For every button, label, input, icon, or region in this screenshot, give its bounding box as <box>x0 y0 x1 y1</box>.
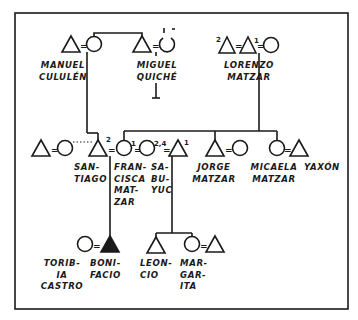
sabuyuc-female-icon <box>140 141 155 156</box>
jorge-wife-female-icon <box>233 141 248 156</box>
miguel-wife-female-icon <box>160 38 175 52</box>
marriage-sign: = <box>163 145 171 155</box>
husband-mark: 1 <box>184 139 189 147</box>
marriage-sign: = <box>93 241 101 251</box>
label-bonifacio: BONI- FACIO <box>90 258 121 281</box>
label-micaela-matzar: MICAELA MATZAR <box>244 162 304 185</box>
bonifacio-ego-male-icon <box>101 236 119 252</box>
lorenzo-wife-female-icon <box>264 38 279 53</box>
label-francisca-matzar: FRAN- CISCA MAT- ZAR <box>114 162 147 208</box>
label-yaxon: YAXÓN <box>304 162 340 174</box>
margarita-female-icon <box>185 237 200 252</box>
label-toribia-castro: TORIB- IA CASTRO <box>38 258 86 293</box>
marriage-sign: = <box>108 145 116 155</box>
francisca-matzar-female-icon <box>117 141 132 156</box>
manuel-cululen-male-icon <box>62 36 80 52</box>
marriage-sign: = <box>225 145 233 155</box>
sibling-link-line <box>94 33 142 37</box>
leoncio-male-icon <box>147 237 165 253</box>
label-manuel-cululen: MANUEL CULULÉN <box>28 60 98 83</box>
santiago-first-wife-husband-male-icon <box>32 140 50 156</box>
santiago-mark: 2 <box>106 136 111 144</box>
manuel-wife-female-icon <box>87 37 102 52</box>
marriage-sign: = <box>200 241 208 251</box>
lorenzo-matzar-male-icon-2 <box>219 37 235 53</box>
label-miguel-quiche: MIGUEL QUICHÉ <box>122 60 192 83</box>
label-margarita: MAR- GAR- ITA <box>180 258 208 293</box>
santiago-first-wife-female-icon <box>58 141 73 156</box>
label-santiago: SAN- TIAGO <box>74 162 107 185</box>
label-jorge-matzar: JORGE MATZAR <box>186 162 242 185</box>
miguel-quiche-male-icon <box>133 36 151 52</box>
margarita-husband-male-icon <box>206 236 224 252</box>
yaxon-male-icon <box>290 140 308 156</box>
micaela-matzar-female-icon <box>270 141 285 156</box>
marriage-sign: = <box>152 41 160 51</box>
label-lorenzo-matzar: LORENZO MATZAR <box>214 60 284 83</box>
mark-2: 2 <box>216 36 221 44</box>
label-sabuyuc: SA- BU- YUC <box>151 162 172 197</box>
marriage-sign: = <box>284 145 292 155</box>
jorge-matzar-male-icon <box>206 140 224 156</box>
toribia-castro-female-icon <box>78 237 93 252</box>
label-leoncio: LEON- CIO <box>140 258 172 281</box>
